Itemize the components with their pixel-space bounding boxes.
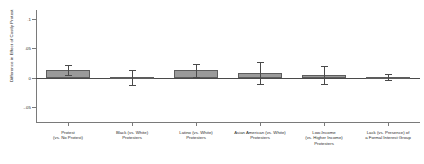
x-axis-category-label: Low-Income (vs. Higher Income) Protester… [292,130,356,146]
error-bar-cap [129,85,136,86]
error-bar-cap [385,74,392,75]
error-bar-cap [65,75,72,76]
error-bar-cap [257,84,264,85]
error-bar-cap [193,64,200,65]
plot-area: .1.050-.05 [36,10,420,122]
x-axis-tick [260,122,261,126]
y-axis-tick-label: 0 [29,75,31,80]
error-bar-cap [257,62,264,63]
y-axis-tick-label: -.05 [23,105,31,110]
y-axis-tick [32,19,36,20]
error-bar-cap [385,80,392,81]
x-axis-tick [388,122,389,126]
x-axis-category-label: Asian American (vs. White) Protesters [228,130,292,141]
error-bar-cap [129,70,136,71]
y-axis-tick-label: .1 [27,16,31,21]
x-axis-category-label: Protest (vs. No Protest) [36,130,100,141]
x-axis-tick [196,122,197,126]
y-axis-tick-label: .05 [25,46,31,51]
error-bar-cap [321,66,328,67]
x-axis-category-label: Black (vs. White) Protesters [100,130,164,141]
error-bar [196,64,197,78]
x-axis-category-label: Latino (vs. White) Protesters [164,130,228,141]
zero-reference-line [36,78,420,79]
y-axis-tick [32,48,36,49]
figure-canvas: Difference in Effect of Costly Protest .… [0,0,424,164]
error-bar-cap [321,84,328,85]
error-bar [260,62,261,84]
x-axis-line [36,122,420,123]
y-axis-tick [32,78,36,79]
y-axis-title: Difference in Effect of Costly Protest [9,9,14,82]
y-axis-tick [32,107,36,108]
error-bar-cap [65,65,72,66]
error-bar [324,66,325,84]
x-axis-tick [324,122,325,126]
x-axis-tick [132,122,133,126]
y-axis-line [36,10,37,122]
x-axis-tick [68,122,69,126]
error-bar [68,65,69,75]
error-bar [132,70,133,85]
error-bar-cap [193,77,200,78]
x-axis-category-label: Lack (vs. Presence) of a Formal Interest… [356,130,420,141]
